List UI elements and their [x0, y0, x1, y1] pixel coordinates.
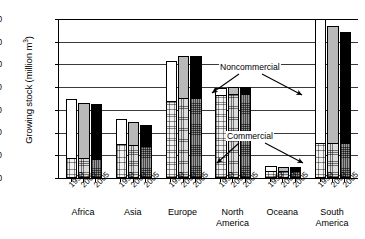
- bar-asia-1990: [116, 119, 127, 178]
- region-label-line: Oceana: [257, 207, 307, 218]
- region-label-europe: Europe: [158, 207, 208, 218]
- segment-noncommercial: [141, 126, 150, 149]
- segment-noncommercial: [117, 120, 126, 146]
- region-label-line: America: [307, 218, 357, 229]
- bar-south-america-2000: [327, 26, 338, 178]
- region-label-line: Asia: [108, 207, 158, 218]
- bar-south-america-1990: [315, 19, 326, 178]
- bar-europe-2005: [190, 56, 201, 178]
- segment-commercial: [191, 98, 200, 178]
- segment-commercial: [167, 101, 176, 177]
- bar-africa-2005: [91, 104, 102, 178]
- bar-group: [308, 19, 358, 178]
- y-axis-tick-label: 20,000: [0, 151, 2, 159]
- y-axis-tick-label: 0: [0, 174, 2, 182]
- segment-noncommercial: [129, 123, 138, 147]
- region-label-north-america: NorthAmerica: [208, 207, 258, 228]
- segment-noncommercial: [67, 100, 76, 160]
- segment-noncommercial: [167, 62, 176, 103]
- region-label-asia: Asia: [108, 207, 158, 218]
- plot-area: [58, 19, 358, 179]
- y-axis-tick-label: 100,000: [0, 60, 2, 68]
- region-label-line: America: [208, 218, 258, 229]
- annotation-commercial: Commercial: [226, 131, 274, 141]
- segment-commercial: [216, 95, 225, 177]
- segment-noncommercial: [328, 27, 337, 145]
- bar-group: [258, 19, 308, 178]
- region-label-africa: Africa: [58, 207, 108, 218]
- bar-group: [209, 19, 259, 178]
- region-label-line: North: [208, 207, 258, 218]
- region-label-line: Africa: [58, 207, 108, 218]
- y-axis-title-suffix: ): [23, 36, 34, 39]
- bar-group: [109, 19, 159, 178]
- bar-south-america-2005: [340, 32, 351, 179]
- y-axis-title-exponent: 3: [22, 39, 29, 43]
- segment-noncommercial: [341, 33, 350, 145]
- annotation-noncommercial: Noncommercial: [219, 62, 281, 72]
- y-axis-tick-label: 40,000: [0, 128, 2, 136]
- bar-group: [159, 19, 209, 178]
- y-axis-title-text: Growing stock (million m: [23, 43, 34, 144]
- region-label-line: South: [307, 207, 357, 218]
- y-axis-title: Growing stock (million m3): [22, 5, 36, 175]
- y-axis-tick-label: 140,000: [0, 15, 2, 23]
- region-label-oceana: Oceana: [257, 207, 307, 218]
- region-label-south-america: SouthAmerica: [307, 207, 357, 228]
- segment-noncommercial: [92, 105, 101, 161]
- segment-noncommercial: [179, 57, 188, 99]
- bar-europe-1990: [166, 61, 177, 178]
- segment-commercial: [316, 143, 325, 177]
- y-axis-tick-label: 80,000: [0, 83, 2, 91]
- region-label-line: Europe: [158, 207, 208, 218]
- bar-europe-2000: [178, 56, 189, 178]
- segment-noncommercial: [191, 57, 200, 99]
- bar-africa-1990: [66, 99, 77, 179]
- segment-commercial: [117, 144, 126, 177]
- y-axis-tick-label: 120,000: [0, 38, 2, 46]
- bar-africa-2000: [78, 103, 89, 178]
- segment-commercial: [179, 98, 188, 178]
- segment-noncommercial: [79, 104, 88, 160]
- y-axis-tick-label: 60,000: [0, 106, 2, 114]
- bar-group: [59, 19, 109, 178]
- growing-stock-chart: Growing stock (million m3) 020,00040,000…: [0, 0, 365, 239]
- segment-noncommercial: [316, 20, 325, 145]
